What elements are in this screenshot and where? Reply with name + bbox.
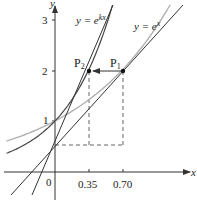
y-tick-label-2: 2 bbox=[42, 65, 48, 77]
y-tick-label-1: 1 bbox=[43, 114, 49, 126]
origin-label: 0 bbox=[46, 176, 52, 188]
curve-label-exp-kx: y = ekx bbox=[75, 13, 106, 26]
axes bbox=[4, 6, 190, 200]
tangent-line-p2 bbox=[32, 5, 113, 195]
y-axis-label: y bbox=[49, 0, 55, 9]
point-p1 bbox=[121, 69, 125, 73]
point-p1-label: P1 bbox=[110, 56, 121, 71]
curve-label-exp-x: y = ex bbox=[133, 19, 161, 32]
x-tick-label-070: 0.70 bbox=[113, 178, 133, 190]
exponential-diagram: P1 P2 y = ekx y = ex y x 3 2 1 0 0.35 0.… bbox=[0, 0, 197, 203]
x-axis-label: x bbox=[190, 166, 196, 178]
x-tick-label-035: 0.35 bbox=[78, 178, 98, 190]
point-p2 bbox=[87, 69, 91, 73]
point-p2-label: P2 bbox=[74, 56, 85, 71]
y-tick-label-3: 3 bbox=[42, 14, 48, 26]
tangent-line-p1 bbox=[11, 5, 183, 195]
